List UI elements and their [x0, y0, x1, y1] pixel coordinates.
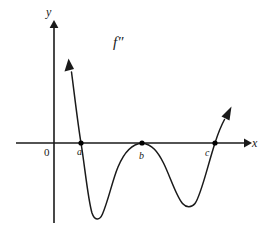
curve-f-double-prime: [65, 59, 232, 219]
y-axis: [50, 20, 59, 223]
curve-right-arrowhead-icon: [222, 107, 232, 121]
function-graph-figure: y x 0 a b c f″: [0, 0, 270, 242]
point-marker-a: [78, 140, 83, 145]
origin-label: 0: [44, 147, 50, 158]
curve-path: [72, 72, 225, 219]
point-label-c: c: [205, 148, 209, 158]
curve-left-arrowhead-icon: [65, 59, 75, 72]
y-axis-arrowhead-icon: [50, 20, 59, 28]
x-axis-arrowhead-icon: [244, 139, 252, 148]
graph-canvas: [0, 0, 270, 242]
curve-label-f-double-prime: f″: [113, 35, 123, 50]
x-axis-label: x: [252, 137, 257, 149]
point-marker-b: [139, 140, 144, 145]
point-marker-c: [212, 140, 217, 145]
point-label-a: a: [77, 147, 82, 157]
point-label-b: b: [139, 151, 144, 161]
y-axis-label: y: [46, 6, 51, 18]
